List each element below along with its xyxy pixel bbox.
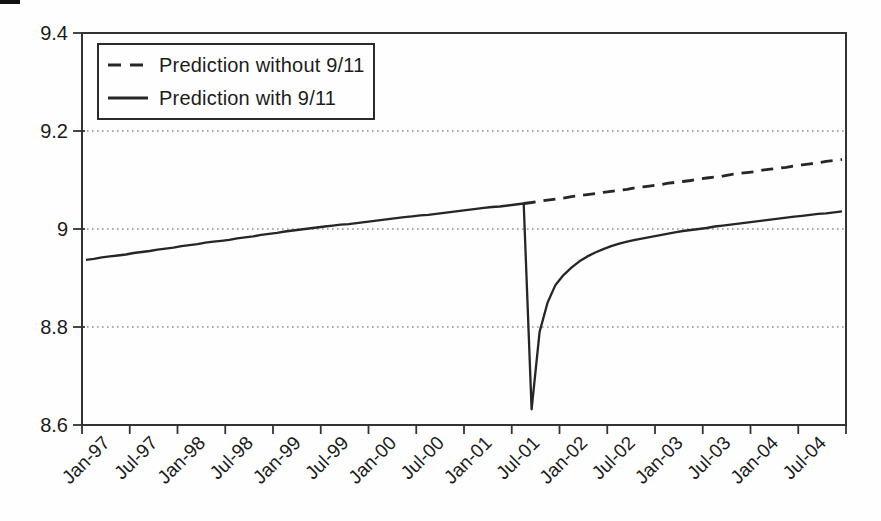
legend-label-without-911: Prediction without 9/11 bbox=[159, 54, 364, 77]
x-tick-label: Jul-97 bbox=[110, 432, 161, 483]
y-tick-label: 8.8 bbox=[40, 316, 68, 338]
x-tick-label: Jan-99 bbox=[249, 432, 305, 488]
solid-line-sample-icon bbox=[108, 95, 148, 101]
x-tick-label: Jul-04 bbox=[779, 432, 831, 484]
legend-item-with-911: Prediction with 9/11 bbox=[108, 85, 373, 111]
y-tick-label: 8.6 bbox=[40, 414, 68, 436]
x-tick-label: Jan-04 bbox=[726, 432, 782, 488]
series-dashed-line bbox=[524, 159, 842, 203]
x-tick-label: Jul-02 bbox=[588, 432, 639, 483]
legend-item-without-911: Prediction without 9/11 bbox=[108, 52, 373, 78]
x-tick-label: Jan-97 bbox=[58, 432, 114, 488]
y-tick-label: 9.2 bbox=[40, 120, 68, 142]
y-tick-label: 9 bbox=[57, 218, 68, 240]
dashed-line-sample-icon bbox=[108, 62, 148, 68]
figure-canvas: 9.49.298.88.6Jan-97Jul-97Jan-98Jul-98Jan… bbox=[0, 0, 881, 521]
x-tick-label: Jul-98 bbox=[206, 432, 257, 483]
x-tick-label: Jan-02 bbox=[535, 432, 591, 488]
x-tick-label: Jan-03 bbox=[631, 432, 687, 488]
x-tick-label: Jul-01 bbox=[492, 432, 543, 483]
y-tick-label: 9.4 bbox=[40, 22, 68, 44]
x-tick-label: Jul-00 bbox=[397, 432, 448, 483]
x-tick-label: Jan-98 bbox=[153, 432, 209, 488]
x-tick-label: Jan-00 bbox=[344, 432, 400, 488]
legend-box: Prediction without 9/11 Prediction with … bbox=[97, 43, 375, 120]
x-tick-label: Jan-01 bbox=[440, 432, 496, 488]
series-solid-line bbox=[86, 204, 842, 410]
x-tick-label: Jul-99 bbox=[301, 432, 352, 483]
legend-label-with-911: Prediction with 9/11 bbox=[159, 87, 336, 110]
x-tick-label: Jul-03 bbox=[683, 432, 734, 483]
